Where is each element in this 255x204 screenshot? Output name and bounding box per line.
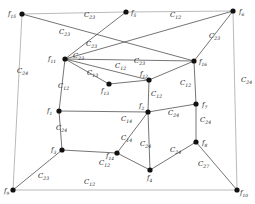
graph-node-f4[interactable]	[147, 167, 152, 172]
graph-node-f5[interactable]	[123, 9, 128, 14]
edge-label-subscript: 12	[89, 182, 95, 187]
edge-label-c12-bottom: C12	[84, 178, 95, 187]
edge-label-c23-f12b: C23	[134, 57, 145, 66]
graph-edge-f1-f2	[59, 111, 148, 112]
edge-label-subscript: 27	[202, 164, 209, 169]
vertex-label-subscript: 12	[142, 74, 148, 79]
edge-label-subscript: 24	[204, 120, 211, 125]
graph-edge-f6-f10	[233, 11, 237, 190]
edge-label-subscript: 24	[172, 113, 179, 118]
edge-label-c13-f11f13: C13	[87, 69, 98, 78]
vertex-label-subscript: 16	[201, 62, 207, 67]
graph-edge-f15-f9	[13, 14, 22, 190]
graph-node-f10[interactable]	[234, 187, 239, 192]
vertex-label-f16: f16	[198, 58, 207, 67]
edge-label-c24-f2f4: C24	[140, 140, 151, 149]
vertex-label-f5: f5	[130, 9, 136, 18]
edge-labels-layer: C23C12C23C23C23C24C24C23C12C23C13C12C12C…	[17, 11, 252, 187]
edge-label-subscript: 12	[63, 86, 69, 91]
edge-label-subscript: 12	[104, 163, 110, 168]
vertex-label-subscript: 15	[10, 14, 16, 19]
vertex-label-f3: f3	[50, 146, 56, 155]
vertex-label-f4: f4	[146, 174, 152, 183]
graph-node-f8[interactable]	[193, 139, 198, 144]
edge-label-c24-f1f3: C24	[56, 124, 67, 133]
vertex-label-f8: f8	[201, 139, 207, 148]
vertex-label-subscript: 8	[204, 143, 207, 148]
edge-label-c24-right: C24	[241, 76, 252, 85]
vertex-label-subscript: 11	[50, 59, 56, 64]
edge-label-subscript: 12	[120, 66, 126, 71]
graph-node-f9[interactable]	[10, 187, 15, 192]
vertex-label-subscript: 14	[108, 156, 114, 161]
edge-label-subscript: 23	[42, 176, 49, 181]
edge-label-c23-f3f9: C23	[38, 172, 49, 181]
graph-node-f16[interactable]	[191, 58, 196, 63]
graph-node-f15[interactable]	[19, 11, 24, 16]
edge-label-c23-f11f12: C23	[73, 52, 84, 61]
graph-node-f13[interactable]	[106, 81, 111, 86]
edge-label-subscript: 23	[63, 32, 70, 37]
edge-label-subscript: 23	[88, 15, 95, 20]
edge-label-subscript: 23	[77, 56, 84, 61]
graph-edge-f14-f4	[117, 153, 150, 170]
edge-label-subscript: 12	[185, 83, 191, 88]
graph-edge-f3-f14	[62, 150, 117, 153]
vertex-label-f9: f9	[3, 187, 9, 196]
graph-edge-f3-f9	[13, 150, 62, 190]
edge-label-c12-f11f1: C12	[58, 82, 69, 91]
edge-label-subscript: 12	[156, 94, 162, 99]
edge-label-c12-f11f12: C12	[115, 62, 126, 71]
edge-label-c24-left: C24	[17, 67, 28, 76]
vertex-label-subscript: 9	[6, 191, 9, 196]
vertex-label-f6: f6	[238, 8, 244, 17]
edge-label-subscript: 24	[60, 128, 67, 133]
graph-diagram-canvas: f15f5f6f11f16f12f13f1f2f7f3f14f8f4f9f10 …	[0, 0, 255, 204]
edge-label-c23-f16f6: C23	[209, 32, 220, 41]
vertex-label-subscript: 10	[242, 193, 248, 198]
edge-label-c24-f7f8: C24	[200, 116, 211, 125]
edge-label-c23-f11f5: C23	[59, 28, 70, 37]
vertex-label-f1: f1	[46, 107, 52, 116]
graph-node-f6[interactable]	[230, 8, 235, 13]
graph-edge-f12-f13	[109, 80, 149, 84]
graph-node-f7[interactable]	[193, 101, 198, 106]
vertex-label-subscript: 4	[148, 178, 152, 183]
edge-label-subscript: 24	[144, 144, 151, 149]
vertex-label-subscript: 3	[53, 150, 56, 155]
graph-node-f11[interactable]	[62, 56, 67, 61]
graph-node-f14[interactable]	[114, 150, 119, 155]
edge-label-subscript: 14	[126, 119, 132, 124]
edge-label-subscript: 24	[245, 80, 252, 85]
graph-edge-f11-f16	[65, 59, 194, 61]
edge-label-subscript: 23	[213, 36, 220, 41]
graph-edge-f5-f6	[126, 11, 233, 12]
graph-edge-f16-f7	[194, 61, 196, 104]
vertex-label-f15: f15	[7, 10, 16, 19]
vertex-label-subscript: 1	[49, 111, 52, 116]
edge-label-subscript: 23	[90, 44, 97, 49]
vertex-label-subscript: 13	[103, 91, 109, 96]
edge-label-c12-f16f7: C12	[180, 79, 191, 88]
edge-label-subscript: 14	[126, 138, 132, 143]
vertex-label-subscript: 6	[241, 12, 244, 17]
edge-label-subscript: 24	[21, 71, 28, 76]
graph-edge-f15-f5	[22, 12, 126, 14]
vertex-label-subscript: 5	[133, 13, 136, 18]
graph-node-f2[interactable]	[145, 109, 150, 114]
graph-edge-f15-f16	[22, 14, 194, 61]
graph-node-f3[interactable]	[59, 147, 64, 152]
vertex-label-f12: f12	[139, 70, 148, 79]
edge-label-subscript: 13	[92, 73, 98, 78]
vertex-label-f10: f10	[239, 189, 248, 198]
graph-edge-f12-f2	[148, 80, 149, 112]
vertex-label-subscript: 7	[204, 105, 207, 110]
graph-edge-f2-f4	[148, 112, 150, 170]
graph-node-f1[interactable]	[56, 108, 61, 113]
edge-label-c12-f12f2: C12	[151, 90, 162, 99]
edge-label-c14-f2: C14	[121, 115, 132, 124]
edge-label-c27-f8f10: C27	[198, 160, 209, 169]
edge-label-c23-diag: C23	[86, 40, 97, 49]
graph-edge-f12-f16	[149, 61, 194, 80]
edge-label-c24-f4f8: C24	[170, 146, 181, 155]
